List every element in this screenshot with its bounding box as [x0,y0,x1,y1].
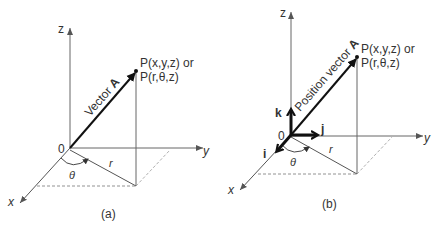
caption-b: (b) [322,197,337,211]
x-axis-label: x [7,195,15,209]
vector-a [70,73,135,148]
origin-label: 0 [58,142,65,156]
caption-a: (a) [101,207,116,221]
y-axis-label: y [423,131,431,145]
panel-a: z y x 0 P(x,y,z) or P(r,θ,z) r θ Vector … [7,22,210,221]
point-label-line1: P(x,y,z) or [361,42,415,56]
theta-label: θ [290,156,296,168]
point-label-line2: P(r,θ,z) [140,70,179,84]
dashed-y-line [136,150,170,186]
point-label-line1: P(x,y,z) or [140,56,194,70]
theta-label: θ [69,169,75,181]
r-line [70,150,136,186]
vector-diagram: z y x 0 P(x,y,z) or P(r,θ,z) r θ Vector … [0,0,443,230]
y-axis-label: y [202,144,210,158]
position-vector-a-label: Position vector A [292,36,362,114]
unit-i-label: i [263,147,266,161]
r-label: r [329,143,334,155]
x-axis-label: x [227,183,235,197]
unit-j-label: j [320,122,324,136]
z-axis-label: z [58,22,64,36]
r-label: r [109,157,114,169]
point-label-line2: P(r,θ,z) [361,56,400,70]
origin-label: 0 [278,129,285,143]
dashed-y-line [357,137,392,174]
z-axis-label: z [280,6,286,20]
r-line [291,137,357,174]
point-p [134,69,138,73]
theta-arc [61,158,88,165]
panel-b: z y x 0 k j i P(x,y,z) or P(r,θ,z) r θ P… [227,6,431,211]
unit-k-label: k [275,106,282,120]
theta-arc [282,145,309,152]
x-axis [20,148,70,203]
point-p [355,55,359,59]
